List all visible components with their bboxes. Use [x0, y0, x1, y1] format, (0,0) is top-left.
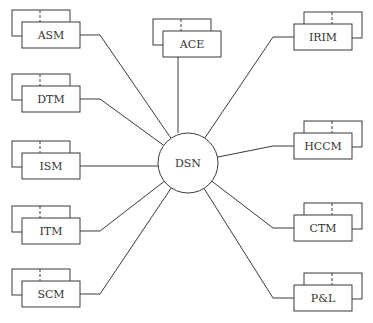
module-asm: ASM — [12, 10, 80, 48]
module-label: DTM — [37, 93, 64, 106]
connector-scm — [80, 188, 171, 294]
module-label: SCM — [37, 288, 64, 301]
module-ctm: CTM — [294, 203, 362, 241]
module-ace: ACE — [153, 19, 221, 57]
module-dtm: DTM — [12, 74, 80, 112]
module-label: ITM — [40, 225, 63, 238]
connector-asm — [80, 35, 171, 138]
module-itm: ITM — [12, 206, 80, 244]
module-pl: P&L — [294, 273, 362, 311]
star-network-diagram: ASMDTMISMITMSCMACEIRIMHCCMCTMP&L DSN — [0, 0, 373, 323]
module-label: CTM — [309, 222, 336, 235]
module-label: HCCM — [304, 140, 342, 153]
connector-hccm — [217, 146, 294, 157]
center-label: DSN — [175, 157, 201, 170]
connector-pl — [204, 188, 294, 298]
module-hccm: HCCM — [294, 121, 362, 159]
connector-itm — [80, 181, 164, 231]
module-label: IRIM — [309, 31, 337, 44]
module-label: P&L — [311, 292, 336, 305]
module-irim: IRIM — [294, 12, 362, 50]
module-scm: SCM — [12, 269, 80, 307]
module-label: ACE — [179, 38, 204, 51]
module-ism: ISM — [12, 141, 80, 179]
connector-dtm — [80, 99, 164, 145]
module-label: ISM — [39, 160, 62, 173]
module-label: ASM — [37, 29, 65, 42]
center-node: DSN — [158, 133, 218, 193]
